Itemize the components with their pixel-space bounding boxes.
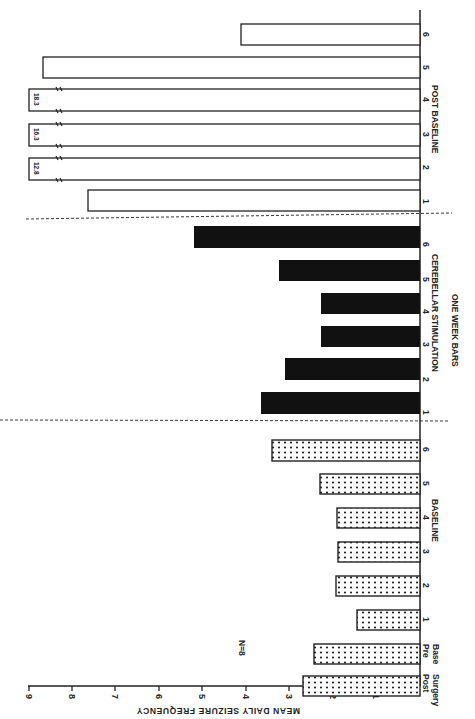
svg-text:1: 1 xyxy=(421,410,431,415)
svg-text:4: 4 xyxy=(421,97,431,102)
svg-text:2: 2 xyxy=(421,377,431,382)
stimulation-bars xyxy=(194,226,420,414)
svg-text:2: 2 xyxy=(421,583,431,588)
svg-text:3: 3 xyxy=(284,694,294,699)
svg-text:5: 5 xyxy=(421,277,431,282)
svg-text:1: 1 xyxy=(421,199,431,204)
svg-text:Post: Post xyxy=(421,674,431,693)
svg-text:POST BASELINE: POST BASELINE xyxy=(430,85,440,154)
svg-text:3: 3 xyxy=(421,132,431,137)
svg-text:4: 4 xyxy=(421,515,431,520)
svg-text:3: 3 xyxy=(421,549,431,554)
svg-text:3: 3 xyxy=(421,342,431,347)
svg-text:6: 6 xyxy=(421,242,431,247)
svg-text:BASELINE: BASELINE xyxy=(430,499,440,542)
divider xyxy=(26,213,452,219)
y-axis-label: MEAN DAILY SEIZURE FREQUENCY xyxy=(136,706,300,716)
svg-text:6: 6 xyxy=(154,694,164,699)
svg-text:2: 2 xyxy=(421,165,431,170)
svg-text:CEREBELLAR STIMULATION: CEREBELLAR STIMULATION xyxy=(430,254,440,372)
svg-text:4: 4 xyxy=(241,694,251,699)
baseline-bars xyxy=(272,440,420,696)
category-labels: Post Surgery Pre Base 1 2 3 4 5 6 BASELI… xyxy=(421,32,460,706)
svg-text:5: 5 xyxy=(421,65,431,70)
svg-text:9: 9 xyxy=(24,694,34,699)
svg-text:Pre: Pre xyxy=(421,644,431,658)
break-label: 18.3 xyxy=(33,93,40,106)
svg-text:5: 5 xyxy=(421,481,431,486)
svg-text:1: 1 xyxy=(421,617,431,622)
break-label: 12.8 xyxy=(33,162,40,175)
divider xyxy=(0,420,450,421)
svg-text:7: 7 xyxy=(110,694,120,699)
svg-text:ONE WEEK BARS: ONE WEEK BARS xyxy=(450,294,460,367)
break-label: 16.3 xyxy=(33,128,40,141)
svg-text:Base: Base xyxy=(431,644,441,665)
svg-text:8: 8 xyxy=(67,694,77,699)
svg-text:4: 4 xyxy=(421,309,431,314)
post-baseline-bars xyxy=(29,24,420,211)
seizure-frequency-chart: 1 2 3 4 5 6 7 8 9 MEAN DAILY SEIZURE FRE… xyxy=(0,0,475,719)
n-annotation: N=8 xyxy=(237,640,247,656)
svg-text:6: 6 xyxy=(421,32,431,37)
svg-text:6: 6 xyxy=(421,447,431,452)
svg-text:5: 5 xyxy=(197,694,207,699)
svg-text:Surgery: Surgery xyxy=(431,674,441,706)
